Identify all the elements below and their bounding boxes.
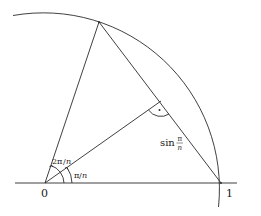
label-half-chord-sin-pi-n: sin π n — [160, 135, 183, 152]
unit-circle-diagram: 0 1 2π / n π / n sin π n — [0, 0, 261, 216]
label-angle-pi-n: π / n — [74, 171, 87, 180]
bisector-line — [45, 101, 161, 183]
svg-text:π: π — [178, 135, 183, 143]
vertex-top-point — [98, 21, 100, 23]
vertex-unit-point — [220, 182, 222, 184]
angle-arc-pi-n — [67, 168, 72, 184]
svg-text:2π: 2π — [52, 157, 62, 166]
unit-circle-arc — [13, 13, 219, 207]
label-unit-point: 1 — [226, 187, 233, 200]
svg-text:sin: sin — [160, 137, 175, 148]
label-origin: 0 — [41, 187, 48, 200]
right-angle-dot — [159, 109, 161, 111]
svg-text:n: n — [178, 144, 183, 152]
chord-line — [99, 22, 221, 183]
label-angle-2pi-n: 2π / n — [52, 157, 71, 166]
svg-text:n: n — [66, 157, 71, 166]
svg-text:n: n — [82, 171, 87, 180]
